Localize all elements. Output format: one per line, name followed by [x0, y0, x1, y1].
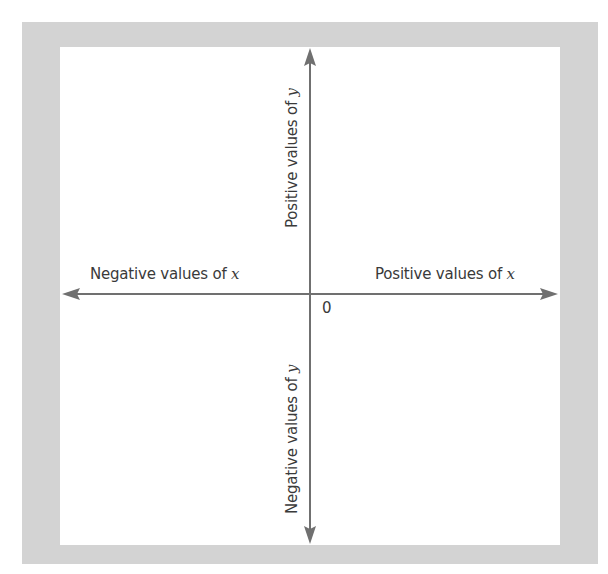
y-axis: [304, 48, 316, 544]
negative-y-variable: y: [283, 365, 301, 373]
negative-y-label-text: Negative values of: [283, 373, 301, 514]
positive-x-label: Positive values of x: [375, 265, 515, 283]
negative-x-label: Negative values of x: [90, 265, 239, 283]
positive-y-label-text: Positive values of: [283, 96, 301, 228]
negative-y-label: Negative values of y: [283, 365, 301, 514]
negative-x-variable: x: [231, 265, 239, 283]
positive-x-label-text: Positive values of: [375, 265, 507, 283]
positive-y-variable: y: [283, 88, 301, 96]
positive-x-variable: x: [507, 265, 515, 283]
axes: [0, 0, 608, 574]
negative-x-label-text: Negative values of: [90, 265, 231, 283]
origin-label: 0: [322, 299, 331, 317]
positive-y-label: Positive values of y: [283, 88, 301, 228]
